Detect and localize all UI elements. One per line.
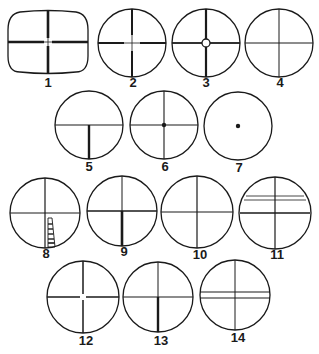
reticle-3 [172, 9, 240, 77]
reticle-4 [245, 9, 313, 77]
reticle-1 [8, 11, 88, 75]
reticle-label-2: 2 [129, 75, 136, 90]
reticle-label-6: 6 [161, 159, 168, 174]
reticle-label-12: 12 [79, 333, 93, 348]
reticle-12 [47, 261, 119, 333]
reticle-5 [55, 91, 123, 159]
reticle-11 [239, 177, 311, 249]
rangefinder-scale-icon [48, 218, 55, 247]
reticle-label-3: 3 [202, 75, 209, 90]
reticle-8 [10, 178, 80, 248]
reticle-label-13: 13 [154, 333, 168, 348]
reticle-label-10: 10 [193, 247, 207, 262]
reticle-2 [98, 9, 166, 77]
reticle-10 [161, 176, 233, 248]
reticle-label-7: 7 [235, 160, 242, 175]
reticle-13 [123, 262, 193, 332]
reticle-label-5: 5 [85, 159, 92, 174]
reticle-14 [200, 260, 270, 330]
reticle-label-14: 14 [231, 330, 246, 345]
reticle-6 [130, 91, 198, 159]
reticle-label-1: 1 [44, 75, 51, 90]
reticle-label-11: 11 [270, 247, 284, 262]
reticle-label-9: 9 [120, 244, 127, 259]
reticle-7 [204, 92, 272, 160]
reticle-label-4: 4 [276, 75, 284, 90]
reticle-label-8: 8 [42, 246, 49, 261]
reticle-9 [87, 176, 157, 246]
reticle-diagram: 1 2 3 4 5 6 7 8 9 10 11 12 13 14 [0, 0, 319, 354]
